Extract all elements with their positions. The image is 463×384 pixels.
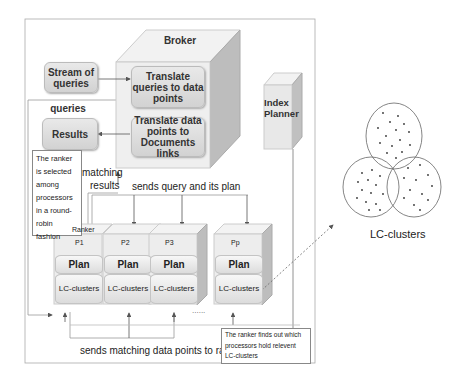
processor-id-p: Pp	[231, 239, 240, 246]
plan-cylinder-p: Plan	[215, 255, 263, 274]
lc-clusters-cylinder-3: LC-clusters	[150, 274, 198, 304]
index-planner-label: Index Planner	[264, 97, 292, 119]
queries-label: queries	[48, 103, 88, 114]
plan-cylinder-2: Plan	[104, 255, 152, 274]
broker-title: Broker	[150, 35, 210, 46]
lc-clusters-cylinder-2: LC-clusters	[104, 274, 152, 304]
translate-queries-box: Translate queries to data points	[131, 66, 205, 108]
lc-clusters-cylinder-p: LC-clusters	[215, 274, 263, 304]
results-label: results	[90, 180, 119, 191]
plan-cylinder-3: Plan	[150, 255, 198, 274]
ranker-selection-note: The ranker is selected among processors …	[32, 150, 82, 236]
lc-clusters-caption: LC-clusters	[370, 228, 426, 240]
processor-id-2: P2	[121, 239, 130, 246]
ranker-label: Ranker	[72, 226, 95, 233]
stream-of-queries-box: Stream of queries	[44, 62, 98, 93]
translate-points-box: Translate data points to Documents links	[131, 117, 205, 157]
ranker-finds-note: The ranker finds out which processors ho…	[221, 328, 311, 364]
plan-cylinder-1: Plan	[55, 255, 103, 274]
processor-id-3: P3	[165, 239, 174, 246]
processor-id-1: P1	[75, 239, 84, 246]
lc-clusters-cylinder-1: LC-clusters	[55, 274, 103, 304]
results-box: Results	[42, 118, 98, 150]
sends-matching-label: sends matching data points to ranker	[80, 345, 244, 356]
ellipsis: ......	[192, 306, 205, 315]
matching-label: matching	[82, 167, 123, 178]
sends-query-label: sends query and its plan	[132, 181, 240, 192]
lc-clusters-venn	[343, 103, 441, 217]
